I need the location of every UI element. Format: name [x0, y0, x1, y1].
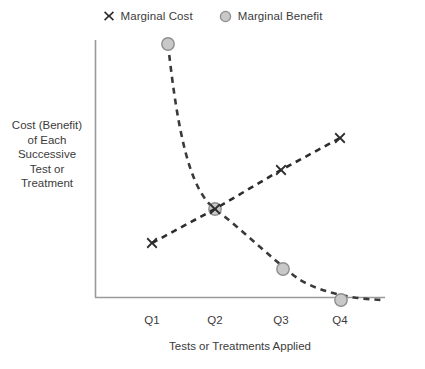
x-tick-label-q4: Q4 [320, 314, 360, 326]
y-axis-label-line-1: Cost (Benefit) [4, 118, 90, 133]
data-point-benefit-q3 [277, 263, 289, 275]
data-point-benefit-q1 [162, 38, 174, 50]
data-point-cost-q1 [147, 238, 158, 249]
axes-lines [95, 40, 385, 298]
x-axis-label: Tests or Treatments Applied [95, 340, 385, 352]
y-axis-label: Cost (Benefit) of Each Successive Test o… [4, 118, 90, 191]
data-point-benefit-q4 [335, 294, 347, 306]
series-marginal-benefit [162, 38, 383, 306]
x-tick-label-q3: Q3 [261, 314, 301, 326]
data-point-cost-q4 [335, 133, 346, 144]
x-tick-label-q2: Q2 [195, 314, 235, 326]
series-marginal-cost [147, 133, 346, 249]
y-axis-label-line-5: Treatment [4, 176, 90, 191]
y-axis-label-line-2: of Each [4, 133, 90, 148]
y-axis-label-line-4: Test or [4, 162, 90, 177]
x-tick-label-q1: Q1 [132, 314, 172, 326]
y-axis-label-line-3: Successive [4, 147, 90, 162]
data-point-cost-q3 [276, 165, 287, 176]
chart-container: Marginal Cost Marginal Benefit [0, 0, 425, 369]
